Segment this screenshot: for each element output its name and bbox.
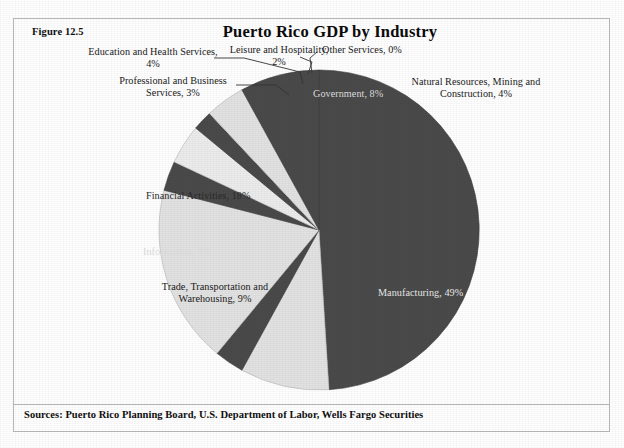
label-information: Information, 3% [143,246,253,258]
label-government: Government, 8% [313,88,433,100]
pie-slice-manufacturing[interactable] [319,70,479,390]
label-professional-and-business-services: Professional and Business Services, 3% [108,75,238,99]
label-other-services: Other Services, 0% [322,44,432,56]
label-trade-transportation-warehousing: Trade, Transportation and Warehousing, 9… [140,281,290,305]
label-education-and-health-services: Education and Health Services, 4% [88,46,218,70]
label-manufacturing: Manufacturing, 49% [378,287,508,299]
figure-page: Figure 12.5 Puerto Rico GDP by Industry … [0,0,624,448]
sources-divider [14,404,609,405]
sources-note: Sources: Puerto Rico Planning Board, U.S… [24,409,423,420]
label-financial-activities: Financial Activities, 18% [146,190,306,202]
label-leisure-and-hospitality: Leisure and Hospitality, 2% [226,44,332,68]
